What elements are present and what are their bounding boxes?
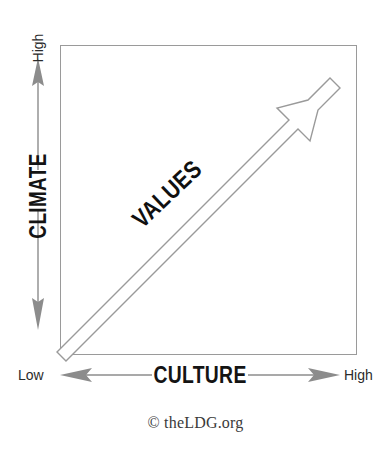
climate-high-label: High — [31, 34, 45, 63]
climate-axis-label: CLIMATE — [27, 153, 50, 238]
copyright-credit: © theLDG.org — [0, 414, 391, 432]
culture-high-label: High — [344, 368, 373, 382]
arrow-down-icon — [32, 298, 44, 330]
culture-low-label: Low — [18, 368, 44, 382]
plot-frame — [60, 45, 357, 355]
culture-axis-label: CULTURE — [153, 364, 246, 387]
culture-climate-values-diagram: High CLIMATE Low CULTURE High VALUES © t… — [0, 0, 391, 472]
